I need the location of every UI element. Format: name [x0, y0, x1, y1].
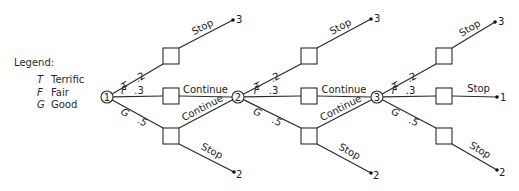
payoff-value: 1	[500, 92, 506, 103]
branch-key: G	[390, 106, 402, 119]
chance-node-label: 2	[235, 92, 241, 103]
payoff-value: 2	[236, 169, 242, 180]
stop-label: Stop	[337, 141, 362, 161]
payoff-value: 2	[373, 170, 379, 181]
continue-edge	[317, 96, 371, 97]
payoff-value: 3	[236, 14, 242, 25]
decision-node	[163, 88, 179, 104]
decision-node	[301, 128, 317, 144]
chance-branch-f	[113, 96, 163, 97]
payoff-value: 3	[498, 16, 504, 27]
terminal-dot	[493, 20, 497, 24]
decision-node	[436, 88, 452, 104]
branch-probability: .5	[407, 114, 421, 128]
chance-branch-f	[383, 96, 436, 97]
branch-probability: .2	[268, 70, 282, 84]
branch-probability: .2	[133, 70, 147, 84]
continue-label: Continue	[183, 84, 228, 95]
decision-node	[163, 128, 179, 144]
chance-node-label: 3	[374, 92, 380, 103]
stop-label: Stop	[467, 83, 490, 94]
terminal-dot	[369, 17, 373, 21]
branch-probability: .3	[406, 85, 416, 96]
branch-probability: .3	[269, 85, 279, 96]
decision-node	[436, 128, 452, 144]
stop-label: Stop	[199, 141, 224, 161]
payoff-value: 2	[499, 167, 505, 178]
branch-probability: .5	[270, 114, 283, 128]
terminal-dot	[231, 18, 235, 22]
continue-label: Continue	[322, 84, 367, 95]
decision-tree: T.2Stop3F.3ContinueG.5ContinueStop21T.2S…	[0, 0, 519, 191]
stop-edge	[452, 96, 497, 97]
payoff-value: 3	[374, 13, 380, 24]
branch-key: G	[252, 106, 264, 119]
chance-branch-f	[244, 96, 301, 97]
branch-probability: .5	[135, 114, 149, 128]
stop-label: Stop	[190, 17, 215, 37]
branch-probability: .2	[405, 70, 419, 84]
decision-node	[301, 88, 317, 104]
stop-label: Stop	[328, 16, 353, 36]
branch-key: F	[254, 85, 260, 96]
branch-key: F	[121, 85, 127, 96]
decision-node	[436, 48, 452, 64]
stop-label: Stop	[457, 17, 482, 38]
branch-key: F	[392, 85, 398, 96]
continue-edge	[179, 96, 232, 97]
chance-node-label: 1	[104, 92, 110, 103]
decision-node	[301, 48, 317, 64]
decision-node	[163, 48, 179, 64]
branch-key: G	[119, 106, 131, 119]
terminal-dot	[495, 95, 499, 99]
stop-label: Stop	[468, 140, 493, 161]
branch-probability: .3	[134, 85, 144, 96]
